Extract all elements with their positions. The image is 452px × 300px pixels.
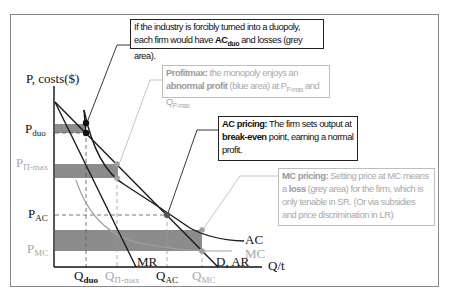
p-ac-sub: AC (35, 213, 48, 223)
p-mc-sub: MC (34, 248, 48, 258)
profitmax-leader (120, 80, 162, 162)
profitmax-note-text-1: the monopoly enjoys an (207, 68, 297, 78)
y-axis-label: P, costs($) (26, 71, 79, 87)
profitmax-note-sub-2: P-max (173, 102, 190, 109)
q-duo-label: Qduo (74, 268, 98, 285)
mc-pricing-note-bold-2: loss (289, 184, 306, 194)
x-axis-label: Q/t (268, 258, 285, 274)
duo-demand-point (83, 130, 89, 136)
q-pimax-main: Q (105, 268, 114, 283)
mc-pricing-loss-area (55, 230, 202, 251)
q-pimax-label: QΠ-max (105, 268, 139, 285)
ac-pricing-note-bold-2: break-even (222, 132, 267, 142)
ac-pricing-note-bold-1: AC pricing: (222, 119, 267, 129)
mc-pricing-note-bold-1: MC pricing: (282, 171, 328, 181)
q-duo-main: Q (74, 268, 83, 283)
p-duo-label: Pduo (25, 121, 46, 138)
q-ac-sub: AC (165, 275, 178, 285)
demand-curve-label: D, AR (216, 254, 249, 270)
q-duo-sub: duo (83, 275, 98, 285)
q-pimax-sub: Π-max (114, 275, 139, 285)
q-mc-main: Q (192, 268, 201, 283)
duopoly-note-bold-sub: duo (228, 40, 239, 47)
p-duo-sub: duo (32, 128, 46, 138)
duopoly-note: If the industry is forcibly turned into … (130, 19, 324, 49)
ac-pricing-leader (168, 130, 218, 213)
pimax-ac-point (114, 175, 120, 181)
profitmax-note-sub-1: P-max (286, 86, 303, 93)
duopoly-leader (88, 45, 130, 120)
profitmax-note-text-2: (blue area) at P (227, 81, 286, 91)
mc-pricing-point (199, 248, 205, 254)
q-mc-label: QMC (192, 268, 215, 285)
profitmax-note: Profitmax: the monopoly enjoys an abnorm… (162, 65, 330, 98)
profitmax-note-bold-1: Profitmax: (166, 68, 207, 78)
duopoly-note-bold: AC (215, 35, 228, 45)
mc-pricing-leader (204, 176, 278, 228)
mc-pricing-note: MC pricing: Setting price at MC means a … (278, 168, 435, 226)
profitmax-note-bold-2: abnormal profit (166, 81, 227, 91)
ac-pricing-note-text-1: The firm sets output at (267, 119, 351, 129)
p-pimax-sub: Π-max (23, 162, 48, 172)
ac-pricing-point (164, 212, 170, 218)
duo-ac-point (83, 120, 89, 126)
ac-pricing-note: AC pricing: The firm sets output at brea… (218, 116, 358, 161)
q-mc-sub: MC (201, 275, 215, 285)
p-pimax-label: PΠ-max (16, 155, 48, 172)
q-ac-label: QAC (156, 268, 178, 285)
mr-curve-label: MR (137, 254, 157, 270)
p-ac-label: PAC (28, 206, 48, 223)
q-ac-main: Q (156, 268, 165, 283)
mc-ac-point (199, 227, 205, 233)
pimax-point (114, 161, 120, 167)
p-mc-label: PMC (27, 241, 48, 258)
